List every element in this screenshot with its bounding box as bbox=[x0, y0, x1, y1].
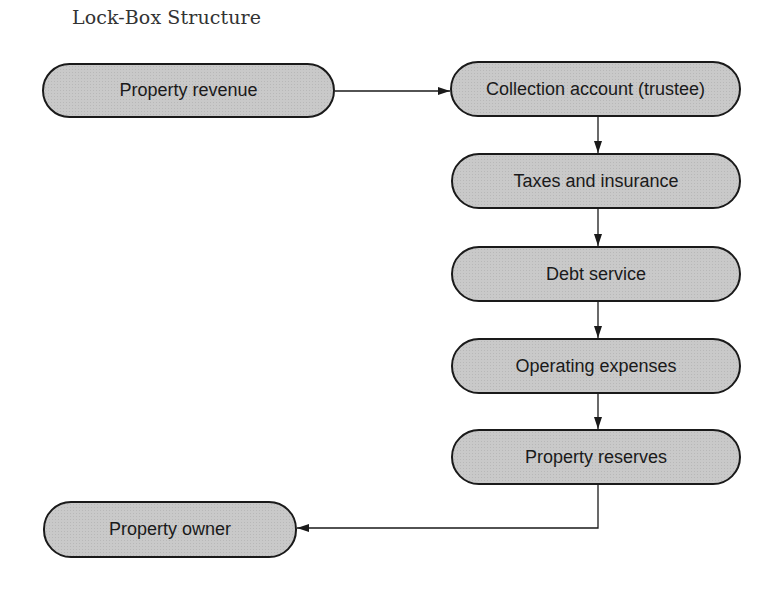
node-property-owner: Property owner bbox=[43, 501, 297, 558]
node-property-reserves: Property reserves bbox=[451, 429, 741, 485]
node-collection-account: Collection account (trustee) bbox=[450, 61, 741, 117]
arrow-reserves-to-owner bbox=[297, 484, 598, 528]
node-operating-expenses: Operating expenses bbox=[451, 338, 741, 394]
node-taxes-insurance: Taxes and insurance bbox=[451, 153, 741, 209]
node-property-revenue: Property revenue bbox=[42, 63, 335, 118]
node-debt-service: Debt service bbox=[451, 246, 741, 302]
